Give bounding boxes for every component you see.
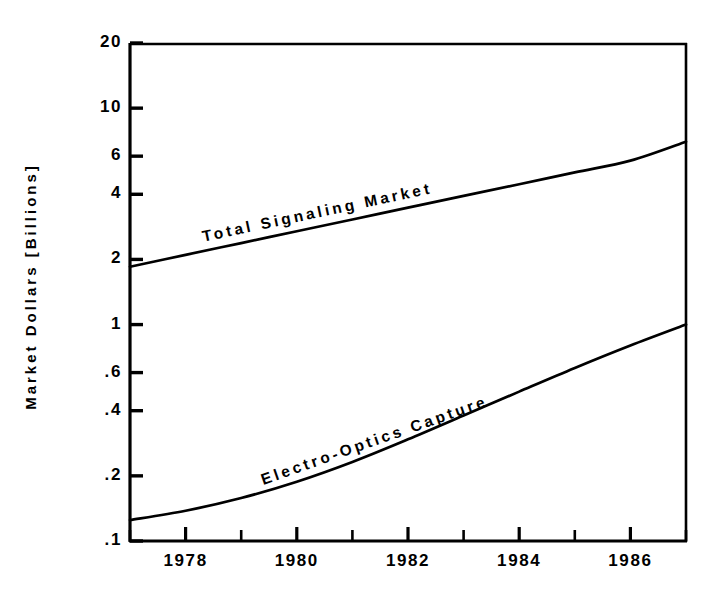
series-line-0 [130, 142, 686, 267]
y-axis-tick-marks [130, 43, 143, 541]
x-axis-tick-marks [130, 527, 686, 541]
plot-area: Total Signaling MarketElectro-Optics Cap… [0, 0, 726, 597]
curve-label-1: Electro-Optics Capture [259, 392, 490, 487]
axis-frame [129, 43, 687, 542]
curve-label-0: Total Signaling Market [201, 179, 434, 244]
curve-labels: Total Signaling MarketElectro-Optics Cap… [201, 179, 490, 487]
chart-figure: Market Dollars [Billions] 20106421.6.4.2… [0, 0, 726, 597]
